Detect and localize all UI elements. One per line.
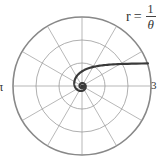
equation-lhs: r [126, 9, 131, 25]
tick-label-pi: π [0, 80, 3, 95]
angular-grid-spoke [82, 86, 117, 146]
origin-dot [81, 85, 84, 88]
fraction-numerator: 1 [148, 3, 154, 15]
tick-label-3: 3 [151, 79, 157, 91]
equation-label: r = 1 θ [126, 3, 156, 31]
equation-equals: = [134, 9, 142, 25]
angular-grid-spoke [22, 52, 82, 87]
hyperbolic-spiral-curve [74, 63, 148, 91]
angular-grid-spoke [82, 26, 117, 86]
angular-grid-spoke [82, 86, 142, 121]
angular-grid-spoke [22, 86, 82, 121]
angular-grid-spoke [48, 86, 83, 146]
angular-grid-spoke [82, 52, 142, 87]
fraction-denominator: θ [147, 18, 153, 31]
fraction: 1 θ [146, 3, 156, 31]
